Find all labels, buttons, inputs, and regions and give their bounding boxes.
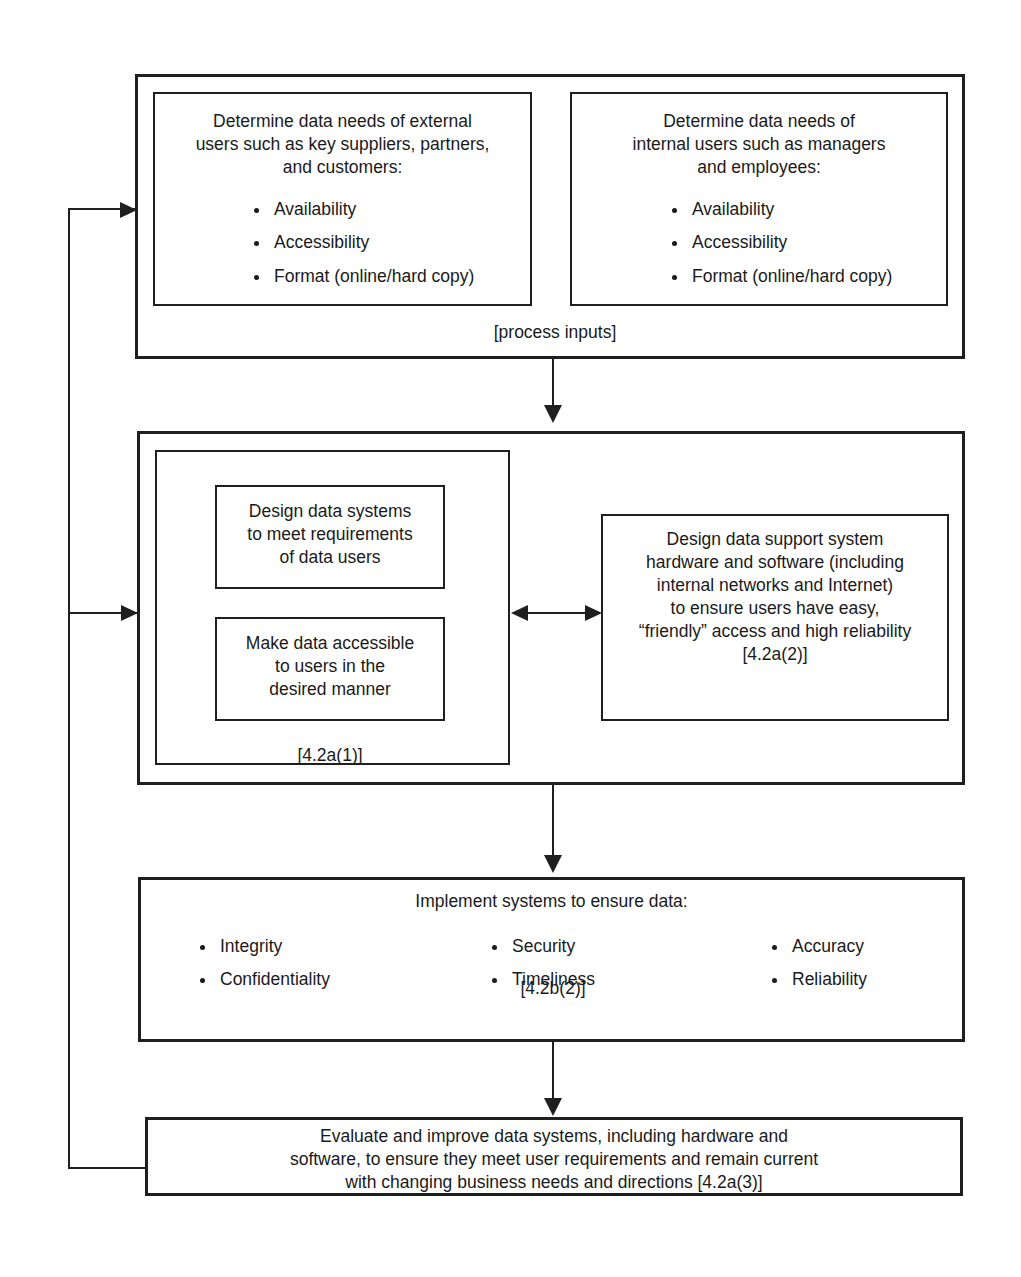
- make-data-accessible-text: Make data accessible to users in the des…: [217, 632, 443, 701]
- evaluate-improve-text: Evaluate and improve data systems, inclu…: [147, 1125, 961, 1194]
- external-users-bullets: Availability Accessibility Format (onlin…: [250, 198, 520, 288]
- flowchart-canvas: Determine data needs of external users s…: [0, 0, 1021, 1277]
- list-item: Accessibility: [250, 231, 520, 254]
- arrow-design-right-icon: [585, 605, 602, 621]
- internal-users-bullets: Availability Accessibility Format (onlin…: [668, 198, 938, 288]
- arrow-design-left-icon: [511, 605, 528, 621]
- list-item: Accuracy: [768, 935, 998, 958]
- design-reference-label: [4.2a(1)]: [215, 745, 445, 766]
- arrow-feedback-to-design-icon: [121, 605, 138, 621]
- list-item: Confidentiality: [196, 968, 426, 991]
- connector-implement-to-evaluate: [552, 1042, 554, 1100]
- design-data-systems-text: Design data systems to meet requirements…: [217, 500, 443, 569]
- external-users-heading: Determine data needs of external users s…: [156, 110, 529, 179]
- feedback-loop-vertical-segment: [68, 208, 70, 1169]
- implement-column-1: Integrity Confidentiality: [196, 935, 426, 992]
- implement-reference-label: [4.2b(2)]: [443, 978, 663, 999]
- list-item: Security: [488, 935, 718, 958]
- connector-design-to-implement: [552, 785, 554, 859]
- connector-design-bidirectional: [520, 612, 592, 614]
- implement-systems-heading: Implement systems to ensure data:: [140, 890, 963, 913]
- arrow-design-to-implement-icon: [544, 855, 562, 873]
- process-inputs-caption: [process inputs]: [400, 322, 710, 343]
- list-item: Reliability: [768, 968, 998, 991]
- implement-column-3: Accuracy Reliability: [768, 935, 998, 992]
- list-item: Availability: [668, 198, 938, 221]
- list-item: Integrity: [196, 935, 426, 958]
- list-item: Accessibility: [668, 231, 938, 254]
- data-support-system-text: Design data support system hardware and …: [604, 528, 946, 667]
- internal-users-heading: Determine data needs of internal users s…: [573, 110, 945, 179]
- connector-inputs-to-design: [552, 359, 554, 409]
- list-item: Availability: [250, 198, 520, 221]
- arrow-inputs-to-design-icon: [544, 405, 562, 423]
- list-item: Format (online/hard copy): [250, 265, 520, 288]
- list-item: Format (online/hard copy): [668, 265, 938, 288]
- arrow-feedback-to-inputs-icon: [120, 202, 137, 218]
- arrow-implement-to-evaluate-icon: [544, 1098, 562, 1116]
- feedback-loop-bottom-segment: [68, 1167, 147, 1169]
